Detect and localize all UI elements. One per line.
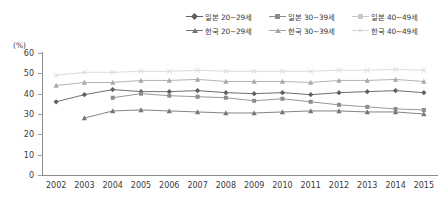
data-point-marker <box>252 69 257 74</box>
data-point-marker <box>252 110 257 115</box>
data-point-marker <box>252 99 256 103</box>
legend-marker-square-icon <box>269 11 286 21</box>
data-point-marker <box>422 108 426 112</box>
data-point-marker <box>167 108 172 113</box>
data-point-marker <box>224 96 228 100</box>
x-axis-line <box>42 175 438 176</box>
data-point-marker <box>195 88 200 93</box>
data-point-marker <box>54 73 59 78</box>
data-point-marker <box>365 68 370 73</box>
y-axis-tick-label: 60 <box>24 49 34 58</box>
x-axis-tick-label: 2005 <box>131 181 151 190</box>
data-point-marker <box>308 92 313 97</box>
legend-item-3[interactable]: 일본 40~49세 <box>352 9 435 23</box>
data-point-marker <box>421 68 426 73</box>
data-point-marker <box>280 90 285 95</box>
x-axis-tick-label: 2014 <box>385 181 405 190</box>
x-axis-tick-label: 2007 <box>187 181 207 190</box>
data-point-marker <box>223 69 228 74</box>
data-point-marker <box>139 92 143 96</box>
data-point-marker <box>54 83 59 88</box>
legend-marker-triangle-icon <box>186 25 203 35</box>
x-axis-labels: 2002200320042005200620072008200920102011… <box>0 181 443 195</box>
data-point-marker <box>365 109 370 114</box>
line-chart: 일본 20~29세일본 30~39세일본 40~49세한국 20~29세한국 3… <box>0 0 443 203</box>
legend-marker-triangle-icon <box>269 25 286 35</box>
data-point-marker <box>309 100 313 104</box>
data-point-marker <box>365 89 370 94</box>
y-axis-tick-label: 10 <box>24 150 34 159</box>
data-point-marker <box>110 87 115 92</box>
legend-marker-square-icon <box>352 11 369 21</box>
data-point-marker <box>421 111 426 116</box>
series-1 <box>54 87 427 104</box>
data-point-marker <box>82 70 87 75</box>
data-point-marker <box>336 108 341 113</box>
x-axis-tick-label: 2011 <box>301 181 321 190</box>
series-6 <box>54 67 427 78</box>
data-point-marker <box>167 69 172 74</box>
data-point-marker <box>336 78 341 83</box>
series-line <box>56 79 424 85</box>
series-2 <box>111 92 426 112</box>
data-point-marker <box>167 78 172 83</box>
x-axis-tick-label: 2015 <box>414 181 434 190</box>
legend-item-5[interactable]: 한국 30~39세 <box>269 23 352 37</box>
y-axis-line <box>42 52 43 176</box>
data-point-marker <box>365 105 369 109</box>
data-point-marker <box>167 94 171 98</box>
legend-item-4[interactable]: 한국 20~29세 <box>186 23 269 37</box>
data-point-marker <box>195 109 200 114</box>
data-point-marker <box>82 115 87 120</box>
legend-label: 일본 20~29세 <box>203 11 252 22</box>
data-point-marker <box>196 95 200 99</box>
data-point-marker <box>110 108 115 113</box>
data-point-marker <box>280 69 285 74</box>
data-point-marker <box>421 90 426 95</box>
legend-label: 일본 40~49세 <box>369 11 418 22</box>
data-point-marker <box>223 90 228 95</box>
data-point-marker <box>280 79 285 84</box>
data-point-marker <box>252 79 257 84</box>
data-point-marker <box>421 79 426 84</box>
legend-label: 한국 30~39세 <box>286 25 335 36</box>
data-point-marker <box>280 97 284 101</box>
chart-legend: 일본 20~29세일본 30~39세일본 40~49세한국 20~29세한국 3… <box>186 9 436 37</box>
x-axis-tick-label: 2013 <box>357 181 377 190</box>
data-point-marker <box>252 91 257 96</box>
data-point-marker <box>308 108 313 113</box>
legend-item-6[interactable]: 한국 40~49세 <box>352 23 435 37</box>
x-axis-tick-label: 2008 <box>216 181 236 190</box>
data-point-marker <box>365 78 370 83</box>
y-axis-labels: 6050403020100 <box>0 0 40 203</box>
data-point-marker <box>393 77 398 82</box>
series-line <box>56 69 424 75</box>
legend-label: 일본 30~39세 <box>286 11 335 22</box>
data-point-marker <box>195 77 200 82</box>
x-axis-tick-label: 2012 <box>329 181 349 190</box>
y-axis-tick-label: 50 <box>24 69 34 78</box>
x-axis-tick-label: 2003 <box>74 181 94 190</box>
data-point-marker <box>394 107 398 111</box>
legend-label: 한국 40~49세 <box>369 25 418 36</box>
legend-item-1[interactable]: 일본 20~29세 <box>186 9 269 23</box>
data-point-marker <box>308 69 313 74</box>
data-point-marker <box>336 90 341 95</box>
data-point-marker <box>138 89 143 94</box>
data-point-marker <box>110 70 115 75</box>
y-axis-tick-label: 20 <box>24 130 34 139</box>
data-point-marker <box>308 80 313 85</box>
data-point-marker <box>82 92 87 97</box>
x-axis-tick-label: 2006 <box>159 181 179 190</box>
data-point-marker <box>111 96 115 100</box>
data-point-marker <box>337 103 341 107</box>
data-point-marker <box>138 107 143 112</box>
x-axis-tick-label: 2009 <box>244 181 264 190</box>
series-5 <box>54 77 427 88</box>
legend-item-2[interactable]: 일본 30~39세 <box>269 9 352 23</box>
x-axis-tick-label: 2002 <box>46 181 66 190</box>
series-line <box>56 90 424 102</box>
y-axis-tick-label: 40 <box>24 89 34 98</box>
data-point-marker <box>393 109 398 114</box>
data-point-marker <box>223 79 228 84</box>
